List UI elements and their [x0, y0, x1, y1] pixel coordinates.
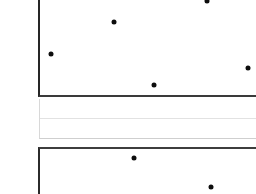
- strip-divider: [40, 118, 256, 119]
- marker-4: [246, 66, 251, 71]
- marker-2: [112, 20, 117, 25]
- upper-panel[interactable]: [38, 0, 256, 97]
- marker-7: [209, 185, 214, 190]
- lower-panel[interactable]: [38, 147, 256, 194]
- marker-3: [49, 52, 54, 57]
- marker-6: [132, 156, 137, 161]
- marker-5: [152, 83, 157, 88]
- panel-view-canvas: [0, 0, 256, 194]
- middle-strip[interactable]: [39, 99, 256, 139]
